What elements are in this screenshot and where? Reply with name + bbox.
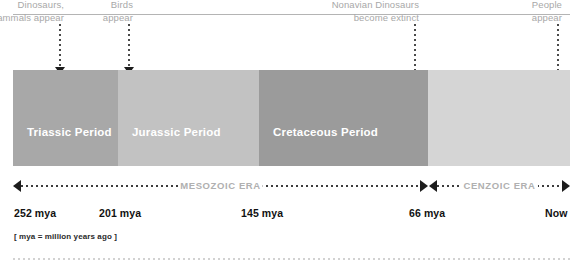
era-span-cenozoic: CENZOIC ERA bbox=[429, 179, 570, 192]
date-label-145mya: 145 mya bbox=[241, 207, 283, 219]
arrow-right-icon bbox=[562, 180, 570, 192]
era-label-cenozoic: CENZOIC ERA bbox=[461, 179, 537, 192]
period-band-label: Triassic Period bbox=[13, 126, 112, 166]
date-label-66mya: 66 mya bbox=[409, 207, 445, 219]
period-band-jurassic[interactable]: Jurassic Period bbox=[118, 70, 259, 166]
event-label-birds: Birds appear bbox=[103, 0, 133, 24]
top-divider-rule bbox=[13, 14, 570, 15]
date-label-252mya: 252 mya bbox=[14, 207, 56, 219]
arrow-left-icon bbox=[429, 180, 437, 192]
arrow-right-icon bbox=[420, 180, 428, 192]
era-label-mesozoic: MESOZOIC ERA bbox=[178, 179, 263, 192]
event-label-line1: Dinosaurs, bbox=[18, 0, 64, 10]
footnote-mya-definition: [ mya = million years ago ] bbox=[14, 232, 117, 241]
event-label-people: People appear bbox=[532, 0, 562, 24]
period-band-cretaceous[interactable]: Cretaceous Period bbox=[259, 70, 428, 166]
event-label-line1: People bbox=[532, 0, 562, 10]
period-band-cenozoic[interactable] bbox=[428, 70, 570, 166]
date-label-201mya: 201 mya bbox=[99, 207, 141, 219]
bottom-divider-rule bbox=[13, 258, 570, 260]
event-label-line2: appear bbox=[103, 12, 133, 23]
event-stem-birds bbox=[128, 24, 130, 67]
event-label-line2: appear bbox=[532, 12, 562, 23]
period-band-label: Cretaceous Period bbox=[259, 126, 378, 166]
arrow-left-icon bbox=[13, 180, 21, 192]
event-label-line1: Nonavian Dinosaurs bbox=[332, 0, 419, 10]
event-label-line2: become extinct bbox=[354, 12, 419, 23]
event-label-dinosaurs-mammals: Dinosaurs, Mammals appear bbox=[0, 0, 64, 24]
event-stem-dinosaurs-mammals bbox=[59, 24, 61, 67]
period-band-triassic[interactable]: Triassic Period bbox=[13, 70, 118, 166]
period-band-bar: Triassic Period Jurassic Period Cretaceo… bbox=[13, 70, 570, 166]
period-band-label bbox=[428, 138, 442, 166]
event-label-extinction: Nonavian Dinosaurs become extinct bbox=[332, 0, 419, 24]
date-label-now: Now bbox=[545, 207, 567, 219]
geologic-timeline-figure: Dinosaurs, Mammals appear Birds appear N… bbox=[0, 0, 582, 269]
period-band-label: Jurassic Period bbox=[118, 126, 221, 166]
event-label-line2: Mammals appear bbox=[0, 12, 64, 23]
event-label-line1: Birds bbox=[111, 0, 133, 10]
era-span-mesozoic: MESOZOIC ERA bbox=[13, 179, 428, 192]
